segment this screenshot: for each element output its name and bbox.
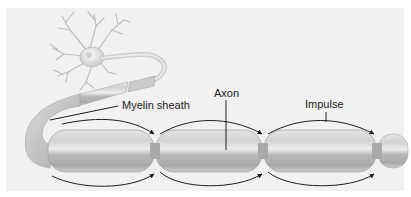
node-of-ranvier <box>258 143 268 159</box>
node-of-ranvier <box>150 143 160 159</box>
node-of-ranvier <box>372 143 382 159</box>
myelin-segment <box>78 82 128 106</box>
myelin-sheath-label: Myelin sheath <box>122 100 190 111</box>
neuron-illustration <box>0 0 411 197</box>
myelin-segment <box>378 134 408 168</box>
myelin-segment <box>156 130 262 172</box>
impulse-arrows-bottom <box>52 172 374 186</box>
myelin-segment <box>264 130 376 172</box>
myelin-segment <box>48 130 154 172</box>
diagram-stage: Myelin sheath Axon Impulse <box>0 0 411 197</box>
axon-label: Axon <box>214 88 239 99</box>
impulse-label: Impulse <box>305 99 344 110</box>
